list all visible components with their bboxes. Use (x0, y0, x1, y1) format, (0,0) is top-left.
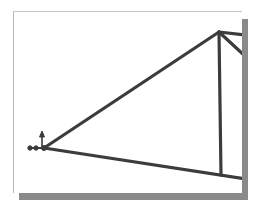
member-bottom-chord[interactable] (44, 148, 246, 179)
member-vertical[interactable] (219, 32, 221, 175)
member-top-chord[interactable] (44, 32, 219, 148)
pin-support-icon (28, 131, 47, 151)
truss-diagram (0, 0, 258, 211)
